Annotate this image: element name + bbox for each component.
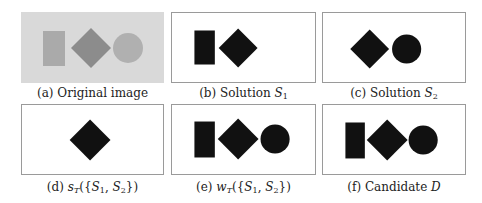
diamond-shape [218,119,259,160]
caption-math: S [275,86,283,100]
caption-math: S [425,86,433,100]
diamond-shape [350,30,389,69]
diamond-shape [70,120,111,161]
rectangle-shape [194,30,214,64]
w-t-shapes [172,105,315,174]
caption-close-brace: }) [126,180,138,194]
caption-label: (a) [37,86,54,100]
caption-subscript: 2 [433,92,438,101]
circle-shape [113,33,143,63]
caption-label: (d) [47,180,64,194]
caption-open-brace: ({ [232,180,244,194]
caption-arg1: S [244,180,252,194]
caption-b: (b) Solution S1 [171,86,316,100]
caption-label: (c) [350,86,366,100]
circle-shape [392,34,421,63]
caption-arg2: S [113,180,121,194]
caption-arg1: S [92,180,100,194]
caption-arg2: S [265,180,273,194]
original-image-shapes [21,12,164,83]
caption-d: (d) sT({S1, S2}) [21,180,164,194]
candidate-d-shapes [323,105,465,174]
panel-solution-s1 [171,12,316,83]
caption-label: (b) [199,86,216,100]
diamond-shape [219,29,258,68]
caption-subscript: 1 [283,92,288,101]
caption-function: w [216,180,226,194]
rectangle-shape [345,122,364,158]
solution-s1-shapes [172,13,315,82]
caption-c: (c) Solution S2 [322,86,466,100]
caption-label: (f) [347,180,361,194]
panel-s-t [21,104,164,175]
caption-f: (f) Candidate D [322,180,466,194]
panel-original-image [21,12,164,83]
caption-text: Candidate [365,180,427,194]
solution-s2-shapes [323,13,465,82]
rectangle-shape [194,122,214,158]
s-t-shapes [22,105,163,174]
caption-close-brace: }) [279,180,291,194]
circle-shape [409,125,438,154]
caption-open-brace: ({ [79,180,91,194]
caption-text: Solution [220,86,271,100]
panel-candidate-d [322,104,466,175]
caption-math: D [431,180,441,194]
caption-text: Solution [370,86,421,100]
caption-label: (e) [196,180,212,194]
panel-w-t [171,104,316,175]
diamond-shape [367,120,408,161]
panel-solution-s2 [322,12,466,83]
caption-separator: , [105,180,113,194]
circle-shape [261,124,290,153]
caption-a: (a) Original image [21,86,164,100]
caption-text: Original image [57,86,148,100]
caption-e: (e) wT({S1, S2}) [171,180,316,194]
rectangle-shape [43,31,65,66]
diamond-shape [71,28,111,68]
